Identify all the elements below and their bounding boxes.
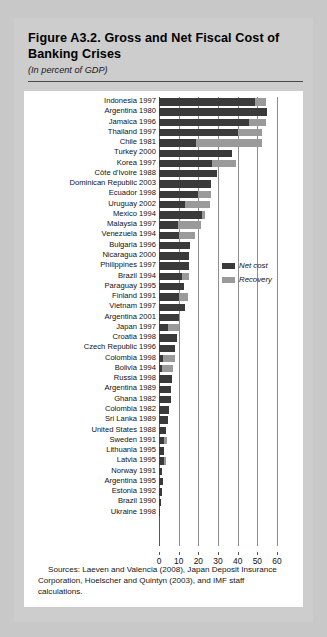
bar-segment-net-cost bbox=[159, 150, 232, 157]
bar-row: Ukraine 1998 bbox=[159, 508, 277, 518]
bar-rows: Indonesia 1997Argentina 1980Jamaica 1996… bbox=[159, 97, 277, 546]
bar-segment-net-cost bbox=[159, 478, 163, 485]
bar-category-label: Venezuela 1994 bbox=[102, 229, 156, 240]
stacked-bar bbox=[159, 98, 266, 105]
stacked-bar bbox=[159, 180, 211, 187]
bar-segment-net-cost bbox=[159, 242, 190, 249]
bar-category-label: Argentina 1989 bbox=[104, 383, 156, 394]
bar-row: Mexico 1994 bbox=[159, 210, 277, 220]
bar-row: Venezuela 1994 bbox=[159, 230, 277, 240]
bar-segment-net-cost bbox=[159, 293, 179, 300]
stacked-bar bbox=[159, 119, 266, 126]
bar-category-label: Sweden 1991 bbox=[110, 435, 156, 446]
bar-segment-recovery bbox=[164, 457, 167, 464]
stacked-bar bbox=[159, 427, 166, 434]
bar-segment-net-cost bbox=[159, 396, 171, 403]
bar-category-label: Colombia 1998 bbox=[105, 353, 156, 364]
axis-tick bbox=[277, 552, 278, 555]
bar-category-label: Malaysia 1997 bbox=[107, 219, 156, 230]
figure-header: Figure A3.2. Gross and Net Fiscal Cost o… bbox=[14, 18, 313, 75]
bar-row: Turkey 2000 bbox=[159, 148, 277, 158]
bar-row: Argentina 2001 bbox=[159, 313, 277, 323]
bar-row: Bulgaria 1996 bbox=[159, 241, 277, 251]
bar-row: Vietnam 1997 bbox=[159, 302, 277, 312]
bar-category-label: Argentina 2001 bbox=[104, 312, 156, 323]
stacked-bar bbox=[159, 375, 172, 382]
stacked-bar bbox=[159, 416, 168, 423]
bar-segment-recovery bbox=[179, 232, 195, 239]
bar-row: Côte d'Ivoire 1988 bbox=[159, 169, 277, 179]
bar-category-label: Philippines 1997 bbox=[100, 260, 156, 271]
stacked-bar bbox=[159, 232, 195, 239]
stacked-bar bbox=[159, 262, 189, 269]
title-divider bbox=[28, 81, 303, 82]
stacked-bar bbox=[159, 365, 173, 372]
bar-category-label: Norway 1991 bbox=[111, 466, 156, 477]
axis-tick bbox=[218, 552, 219, 555]
bar-category-label: Côte d'Ivoire 1988 bbox=[95, 168, 156, 179]
bar-category-label: Japan 1997 bbox=[116, 322, 156, 333]
stacked-bar bbox=[159, 304, 185, 311]
axis-tick bbox=[198, 552, 199, 555]
stacked-bar bbox=[159, 221, 201, 228]
bar-segment-net-cost bbox=[159, 129, 238, 136]
bar-segment-recovery bbox=[162, 365, 172, 372]
bar-category-label: Russia 1998 bbox=[114, 373, 156, 384]
chart-panel: Indonesia 1997Argentina 1980Jamaica 1996… bbox=[24, 91, 303, 607]
bar-row: Colombia 1982 bbox=[159, 405, 277, 415]
bar-segment-recovery bbox=[238, 129, 263, 136]
bar-category-label: United States 1988 bbox=[91, 425, 156, 436]
stacked-bar bbox=[159, 129, 262, 136]
bar-segment-net-cost bbox=[159, 232, 179, 239]
axis-tick bbox=[257, 552, 258, 555]
bar-segment-net-cost bbox=[159, 170, 217, 177]
axis-tick bbox=[159, 552, 160, 555]
bar-row: Colombia 1998 bbox=[159, 354, 277, 364]
bar-segment-net-cost bbox=[159, 108, 267, 115]
bar-category-label: Indonesia 1997 bbox=[104, 96, 156, 107]
bar-row: Indonesia 1997 bbox=[159, 97, 277, 107]
bar-segment-recovery bbox=[255, 98, 266, 105]
bar-category-label: Finland 1991 bbox=[112, 291, 156, 302]
bar-segment-net-cost bbox=[159, 139, 196, 146]
bar-segment-net-cost bbox=[159, 345, 175, 352]
stacked-bar bbox=[159, 314, 179, 321]
bar-segment-net-cost bbox=[159, 262, 189, 269]
bar-segment-recovery bbox=[164, 437, 167, 444]
bar-segment-recovery bbox=[182, 273, 189, 280]
bar-row: Argentina 1980 bbox=[159, 107, 277, 117]
stacked-bar bbox=[159, 252, 189, 259]
bar-row: Estonia 1992 bbox=[159, 487, 277, 497]
bar-row: Argentina 1989 bbox=[159, 384, 277, 394]
bar-segment-net-cost bbox=[159, 211, 202, 218]
stacked-bar bbox=[159, 447, 164, 454]
stacked-bar bbox=[159, 108, 267, 115]
stacked-bar bbox=[159, 160, 236, 167]
stacked-bar bbox=[159, 324, 179, 331]
bar-category-label: Sri Lanka 1989 bbox=[105, 414, 156, 425]
bar-segment-net-cost bbox=[159, 509, 160, 516]
bar-row: Sri Lanka 1989 bbox=[159, 415, 277, 425]
stacked-bar bbox=[159, 437, 167, 444]
bar-segment-net-cost bbox=[159, 119, 249, 126]
bar-category-label: Vietnam 1997 bbox=[109, 301, 156, 312]
bar-category-label: Colombia 1982 bbox=[105, 404, 156, 415]
bar-segment-net-cost bbox=[159, 180, 211, 187]
bar-category-label: Turkey 2000 bbox=[114, 147, 156, 158]
bar-row: Bolivia 1994 bbox=[159, 364, 277, 374]
axis-tick bbox=[238, 552, 239, 555]
bar-row: Chile 1981 bbox=[159, 138, 277, 148]
bar-segment-recovery bbox=[185, 201, 209, 208]
stacked-bar bbox=[159, 488, 162, 495]
plot-area: Indonesia 1997Argentina 1980Jamaica 1996… bbox=[159, 97, 277, 546]
bar-segment-recovery bbox=[179, 293, 187, 300]
bar-row: Dominican Republic 2003 bbox=[159, 179, 277, 189]
legend-label-recovery: Recovery bbox=[239, 275, 272, 284]
stacked-bar bbox=[159, 334, 177, 341]
bar-segment-net-cost bbox=[159, 283, 184, 290]
bar-row: Japan 1997 bbox=[159, 323, 277, 333]
bar-category-label: Thailand 1997 bbox=[108, 127, 156, 138]
bar-category-label: Bulgaria 1996 bbox=[109, 240, 156, 251]
bar-category-label: Ghana 1982 bbox=[114, 394, 156, 405]
stacked-bar bbox=[159, 242, 190, 249]
